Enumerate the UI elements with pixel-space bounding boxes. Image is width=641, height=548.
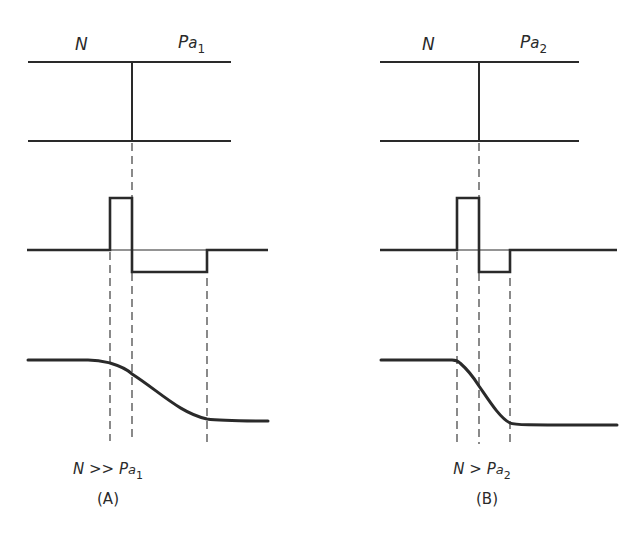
panel-a-p-region-label: Pa1 [178,32,205,52]
panel-a-condition-a: a [128,462,136,477]
panel-a-condition-subscript: 1 [136,469,143,482]
panel-a-n-region-label: N [75,34,88,54]
panel-a-charge-density [27,198,268,272]
panel-b-charge-density [380,198,617,272]
panel-b-condition-subscript: 2 [504,469,511,482]
panel-b-condition: N > Pa2 [453,460,510,478]
panel-b-p-subscript: 2 [539,42,547,56]
panel-b-p-text: P [520,32,530,52]
panel-a-p-subscript: 1 [197,42,205,56]
panel-b-caption: (B) [476,490,498,508]
panel-a [27,62,268,444]
panel-a-condition-text: N >> P [73,460,128,478]
panel-a-caption: (A) [97,490,119,508]
panel-b-n-label: N [422,34,435,54]
panel-b [380,62,617,444]
panel-a-p-text: P [178,32,188,52]
panel-b-condition-text: N > P [453,460,495,478]
panel-b-n-text: N [422,34,435,54]
panel-a-potential-curve [28,360,268,421]
panel-b-p-region-label: Pa2 [520,32,547,52]
panel-a-condition: N >> Pa1 [73,460,143,478]
panel-b-potential-curve [381,360,617,425]
panel-a-n-text: N [75,34,88,54]
